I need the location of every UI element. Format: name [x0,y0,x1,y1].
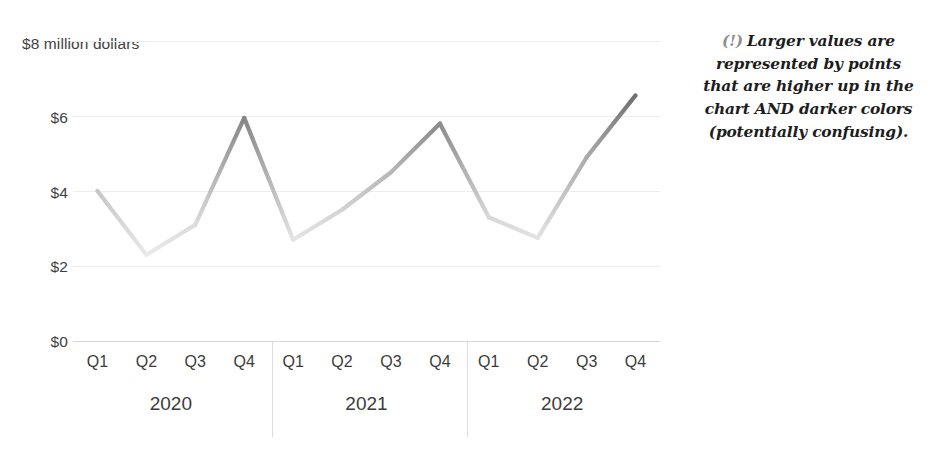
plot-area [73,41,660,341]
chart-screenshot: $8 million dollars $6 $4 $2 $0 Q1Q2Q3Q4Q… [0,0,949,449]
data-line [73,41,660,341]
x-tick-label: Q2 [120,347,172,377]
y-tick-label-6: $6 [10,110,68,126]
x-tick-label: Q1 [463,347,515,377]
line-segment [97,191,146,255]
annotation-line: (!)Larger values are [668,30,949,53]
x-axis: Q1Q2Q3Q4Q1Q2Q3Q4Q1Q2Q3Q4 202020212022 [73,341,660,437]
y-tick-label-0: $0 [10,334,68,350]
x-axis-group-label: 2021 [287,389,447,419]
x-tick-label: Q2 [512,347,564,377]
line-segment [146,225,195,255]
x-tick-label: Q3 [365,347,417,377]
x-tick-label: Q2 [316,347,368,377]
x-tick-label: Q4 [218,347,270,377]
y-axis: $8 million dollars $6 $4 $2 $0 [0,0,68,449]
line-segment [391,124,440,173]
annotation-line: represented by points [668,53,949,76]
line-segment [538,157,587,238]
x-tick-label: Q4 [610,347,662,377]
x-axis-group-label: 2020 [91,389,251,419]
x-tick-label: Q3 [561,347,613,377]
x-tick-label: Q1 [267,347,319,377]
year-label-row: 202020212022 [73,389,660,423]
x-tick-label: Q3 [169,347,221,377]
annotation-line: chart AND darker colors [668,98,949,121]
line-segment [587,95,636,157]
line-chart: $8 million dollars $6 $4 $2 $0 Q1Q2Q3Q4Q… [0,0,672,449]
x-tick-label: Q1 [71,347,123,377]
annotation-callout: (!)Larger values arerepresented by point… [668,30,949,143]
line-segment [293,210,342,240]
line-segment [342,172,391,210]
x-axis-rule [73,341,660,342]
x-axis-group-label: 2022 [482,389,642,419]
x-tick-label: Q4 [414,347,466,377]
line-segment [195,118,244,225]
annotation-line: (potentially confusing). [668,121,949,144]
annotation-line: that are higher up in the [668,75,949,98]
line-segment [244,118,293,240]
warning-icon: (!) [722,32,743,50]
line-segment [440,124,489,218]
y-tick-label-2: $2 [10,259,68,275]
quarter-tick-row: Q1Q2Q3Q4Q1Q2Q3Q4Q1Q2Q3Q4 [73,347,660,381]
y-tick-label-4: $4 [10,185,68,201]
line-segment [489,217,538,238]
